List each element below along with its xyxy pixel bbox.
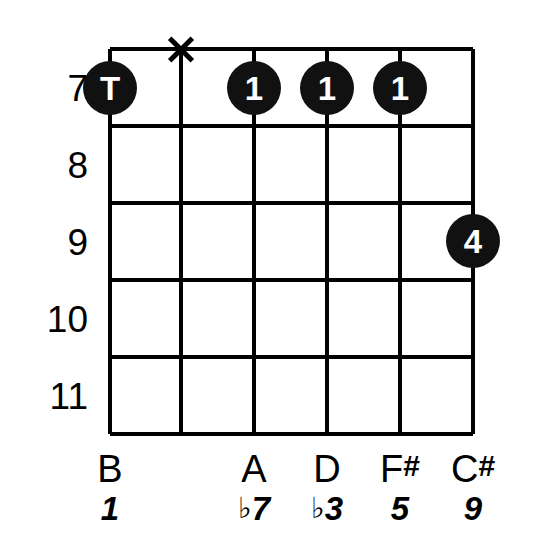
string-line-2 <box>179 49 183 434</box>
fret-number-10: 10 <box>8 301 88 338</box>
note-name-string-6: C <box>451 448 478 490</box>
note-name-string-1: B <box>97 448 122 490</box>
fret-line-10-11 <box>110 355 473 359</box>
interval-degree-string-3: 7 <box>252 490 270 527</box>
interval-degree-string-1: 1 <box>101 490 119 527</box>
interval-degree-string-5: 5 <box>391 490 409 527</box>
note-name-string-4: D <box>313 448 340 490</box>
interval-label-string-1: 1 <box>101 492 119 525</box>
note-label-string-4: D <box>313 450 340 488</box>
muted-string-x-icon <box>164 32 198 66</box>
interval-degree-string-4: 3 <box>325 490 343 527</box>
fret-line-9-10 <box>110 278 473 282</box>
fret-line-bottom <box>110 432 473 436</box>
note-label-string-3: A <box>241 450 266 488</box>
finger-dot-index-string4-fret7[interactable]: 1 <box>300 61 354 115</box>
interval-accidental-string-4: ♭ <box>311 492 325 524</box>
fret-number-8: 8 <box>8 147 88 184</box>
note-accidental-string-6: # <box>478 449 495 482</box>
fret-line-7-8 <box>110 124 473 128</box>
interval-degree-string-6: 9 <box>464 490 482 527</box>
finger-dot-index-string5-fret7[interactable]: 1 <box>373 61 427 115</box>
finger-dot-index-string3-fret7[interactable]: 1 <box>227 61 281 115</box>
chord-diagram-page: 7 8 9 10 11 T 1 1 1 4 B A D F# C# 1 ♭7 ♭… <box>0 0 536 558</box>
note-label-string-1: B <box>97 450 122 488</box>
note-label-string-5: F# <box>380 450 420 488</box>
fret-number-9: 9 <box>8 224 88 261</box>
note-name-string-3: A <box>241 448 266 490</box>
interval-label-string-4: ♭3 <box>311 492 343 525</box>
fret-number-column: 7 8 9 10 11 <box>0 0 88 558</box>
note-name-string-5: F <box>380 448 403 490</box>
interval-label-string-3: ♭7 <box>238 492 270 525</box>
note-label-string-6: C# <box>451 450 495 488</box>
finger-dot-pinky-string6-fret9[interactable]: 4 <box>446 214 500 268</box>
interval-label-string-6: 9 <box>464 492 482 525</box>
interval-label-string-5: 5 <box>391 492 409 525</box>
interval-accidental-string-3: ♭ <box>238 492 252 524</box>
fret-line-8-9 <box>110 201 473 205</box>
finger-dot-thumb-string1-fret7[interactable]: T <box>83 61 137 115</box>
fret-number-11: 11 <box>8 378 88 415</box>
fret-number-7: 7 <box>8 70 88 107</box>
note-accidental-string-5: # <box>403 449 420 482</box>
